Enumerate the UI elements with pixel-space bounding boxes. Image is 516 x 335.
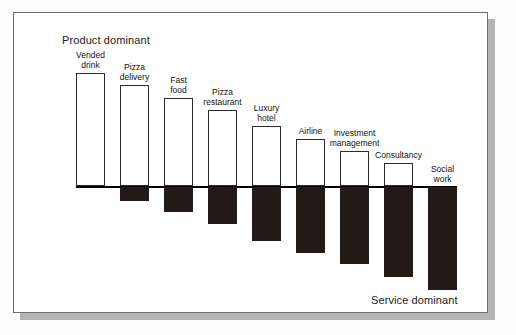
- bar-investment-management-negative-segment: [340, 187, 369, 264]
- figure-panel: Product dominant Service dominant Vended…: [13, 12, 488, 313]
- bar-consultancy-label: Consultancy: [364, 151, 434, 161]
- product-dominant-label: Product dominant: [62, 34, 150, 46]
- screenshot-canvas: Product dominant Service dominant Vended…: [0, 0, 516, 335]
- service-dominant-label: Service dominant: [371, 294, 458, 306]
- bar-luxury-hotel-negative-segment: [252, 187, 281, 241]
- chart-plot-area: Product dominant Service dominant Vended…: [14, 13, 489, 314]
- bar-social-work-negative-segment: [428, 187, 457, 290]
- bar-fast-food-positive-segment: [164, 98, 193, 186]
- bar-pizza-delivery-positive-segment: [120, 85, 149, 186]
- bar-investment-management-label: Investment management: [320, 129, 390, 148]
- bar-luxury-hotel-label: Luxury hotel: [232, 104, 302, 123]
- bar-social-work-label: Social work: [408, 165, 478, 184]
- bar-pizza-restaurant-negative-segment: [208, 187, 237, 224]
- bar-airline-negative-segment: [296, 187, 325, 253]
- bar-pizza-delivery-negative-segment: [120, 187, 149, 201]
- bar-vended-drink-positive-segment: [76, 73, 105, 186]
- bar-fast-food-negative-segment: [164, 187, 193, 212]
- bar-consultancy-negative-segment: [384, 187, 413, 277]
